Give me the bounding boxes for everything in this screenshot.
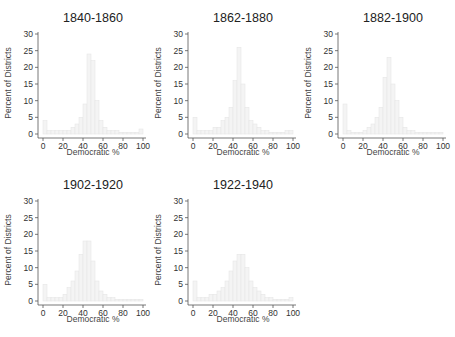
histogram-plot: 051015202530020406080100 [38, 28, 148, 138]
histogram-bar [383, 77, 387, 134]
y-tick-label: 15 [24, 79, 34, 89]
y-tick-label: 25 [24, 46, 34, 56]
histogram-bar [75, 271, 79, 301]
histogram-bar [205, 298, 209, 301]
histogram-bar [269, 298, 273, 301]
y-tick-label: 15 [24, 246, 34, 256]
panel-title: 1902-1920 [38, 178, 148, 192]
histogram-bar [225, 117, 229, 134]
histogram-bar [115, 299, 119, 301]
histogram-bar [107, 298, 111, 301]
y-tick-label: 10 [24, 96, 34, 106]
histogram-bar [127, 299, 131, 301]
histogram-bar [83, 104, 87, 134]
histogram-bar [395, 101, 399, 134]
histogram-bar [245, 268, 249, 301]
y-tick-label: 25 [174, 46, 184, 56]
y-tick-label: 25 [174, 213, 184, 223]
histogram-bar [427, 132, 431, 134]
panel-1882-1900: 1882-1900 Percent of Districts 051015202… [300, 0, 450, 165]
histogram-bar [193, 117, 197, 134]
y-tick-label: 5 [328, 112, 333, 122]
x-axis-label: Democratic % [338, 147, 448, 157]
histogram-bar [347, 131, 351, 134]
histogram-bar [79, 254, 83, 301]
y-tick-label: 5 [28, 112, 33, 122]
y-tick-label: 20 [24, 62, 34, 72]
y-axis-label: Percent of Districts [153, 214, 163, 285]
histogram-bar [131, 132, 135, 134]
y-tick-label: 0 [28, 296, 33, 306]
histogram-bar [205, 131, 209, 134]
histogram-bar [135, 299, 139, 301]
histogram-bar [249, 281, 253, 301]
y-tick-label: 10 [324, 96, 334, 106]
clipped-footnote [75, 328, 325, 337]
y-axis-label: Percent of Districts [153, 47, 163, 118]
histogram-bar [241, 254, 245, 301]
histogram-bar [245, 107, 249, 134]
y-tick-label: 5 [178, 112, 183, 122]
histogram-bar [201, 298, 205, 301]
y-tick-label: 15 [174, 246, 184, 256]
histogram-bar [233, 261, 237, 301]
histogram-bar [257, 127, 261, 134]
histogram-bar [209, 294, 213, 301]
histogram-bar [123, 299, 127, 301]
x-axis-label: Democratic % [188, 147, 298, 157]
histogram-bar [411, 131, 415, 134]
y-tick-label: 0 [328, 129, 333, 139]
panel-1840-1860: 1840-1860 Percent of Districts 051015202… [0, 0, 150, 165]
histogram-bar [269, 132, 273, 134]
histogram-bar [115, 131, 119, 134]
histogram-bar [407, 131, 411, 134]
histogram-bar [225, 281, 229, 301]
histogram-bar [63, 294, 67, 301]
histogram-bar [285, 299, 289, 301]
panel-title: 1862-1880 [188, 11, 298, 25]
y-tick-label: 5 [28, 279, 33, 289]
histogram-bar [277, 299, 281, 301]
y-tick-label: 25 [24, 213, 34, 223]
x-axis-label: Democratic % [38, 314, 148, 324]
y-tick-label: 25 [324, 46, 334, 56]
histogram-bar [107, 131, 111, 134]
histogram-bar [47, 298, 51, 301]
panel-title: 1840-1860 [38, 11, 148, 25]
histogram-bar [265, 131, 269, 134]
histogram-bar [439, 132, 443, 134]
histogram-bar [59, 131, 63, 134]
histogram-plot: 051015202530020406080100 [188, 195, 298, 305]
histogram-bar [79, 117, 83, 134]
histogram-bar [63, 131, 67, 134]
histogram-bar [277, 132, 281, 134]
histogram-bar [103, 294, 107, 301]
histogram-bar [119, 132, 123, 134]
histogram-plot: 051015202530020406080100 [188, 28, 298, 138]
histogram-bar [197, 131, 201, 134]
y-axis-label: Percent of Districts [3, 47, 13, 118]
histogram-bar [55, 131, 59, 134]
histogram-bar [371, 124, 375, 134]
x-axis-label: Democratic % [38, 147, 148, 157]
histogram-bar [139, 299, 143, 301]
histogram-bar [111, 298, 115, 301]
y-tick-label: 20 [174, 62, 184, 72]
y-tick-label: 0 [178, 129, 183, 139]
histogram-bar [51, 298, 55, 301]
y-tick-label: 30 [174, 196, 184, 206]
histogram-bar [343, 104, 347, 134]
histogram-plot: 051015202530020406080100 [338, 28, 448, 138]
histogram-bar [289, 298, 293, 301]
y-tick-label: 20 [324, 62, 334, 72]
y-tick-label: 20 [24, 229, 34, 239]
panel-1902-1920: 1902-1920 Percent of Districts 051015202… [0, 167, 150, 332]
histogram-bar [237, 254, 241, 301]
histogram-bar [419, 132, 423, 134]
histogram-bar [213, 294, 217, 301]
panel-title: 1922-1940 [188, 178, 298, 192]
histogram-bar [403, 127, 407, 134]
histogram-bar [87, 54, 91, 134]
histogram-bar [71, 127, 75, 134]
histogram-bar [253, 288, 257, 301]
